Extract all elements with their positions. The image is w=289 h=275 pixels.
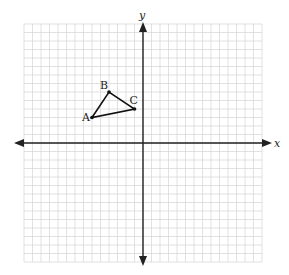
triangle-abc: ABC	[81, 79, 138, 124]
vertex-label-a: A	[81, 111, 91, 124]
coordinate-plane: x y ABC	[0, 0, 289, 275]
vertex-c	[133, 107, 137, 111]
vertex-a	[90, 116, 94, 120]
axes: x y	[14, 9, 281, 266]
y-axis-arrow-down-icon	[139, 256, 147, 266]
vertex-label-b: B	[100, 79, 108, 92]
x-axis-arrow-right-icon	[262, 139, 272, 147]
x-axis-label: x	[274, 137, 281, 150]
triangle-outline	[92, 92, 135, 118]
x-axis-arrow-left-icon	[14, 139, 24, 147]
y-axis-label: y	[138, 9, 146, 22]
vertex-label-c: C	[130, 94, 138, 107]
y-axis-arrow-up-icon	[139, 22, 147, 32]
